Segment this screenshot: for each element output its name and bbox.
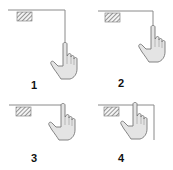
step-2-panel: 2: [87, 0, 173, 85]
hatched-rectangle: [104, 107, 119, 116]
step-3-panel: 3: [0, 85, 86, 170]
hatched-rectangle: [16, 107, 31, 116]
step-1-panel: 1: [0, 0, 86, 85]
hatched-rectangle: [105, 13, 120, 22]
hand-pointer-icon: [121, 103, 147, 140]
hand-pointer-icon: [51, 43, 77, 80]
hand-pointer-icon: [139, 26, 165, 63]
step-4-panel: 4: [87, 85, 173, 170]
hatched-rectangle: [17, 12, 32, 21]
step-label: 3: [24, 153, 44, 164]
hand-pointer-icon: [49, 104, 75, 141]
step-label: 4: [111, 153, 131, 164]
